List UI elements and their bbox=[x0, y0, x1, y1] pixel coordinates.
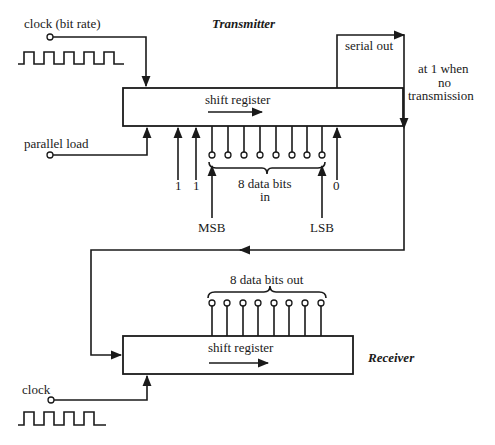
serial-out-label: serial out bbox=[345, 38, 393, 53]
data-in-pin-4 bbox=[257, 152, 263, 158]
transmitter-clock-label: clock (bit rate) bbox=[24, 16, 101, 31]
transmitter-clock-wire bbox=[53, 37, 146, 86]
data-in-pin-3 bbox=[241, 152, 247, 158]
data-in-pin-6 bbox=[289, 152, 295, 158]
data-out-label: 8 data bits out bbox=[230, 272, 304, 287]
transmitter-clock-terminal bbox=[47, 34, 53, 40]
data-out-pin-3 bbox=[240, 300, 246, 306]
transmitter-title: Transmitter bbox=[212, 16, 276, 31]
serial-transmission-diagram: Transmitter clock (bit rate) shift regis… bbox=[0, 0, 495, 445]
data-out-pin-6 bbox=[286, 300, 292, 306]
transmitter-clock-waveform-icon bbox=[18, 52, 124, 64]
data-out-pin-8 bbox=[318, 300, 324, 306]
data-in-pin-2 bbox=[225, 152, 231, 158]
receiver-clock-wire bbox=[54, 376, 147, 400]
idle-note-line1: at 1 when bbox=[418, 61, 469, 76]
data-in-pin-5 bbox=[273, 152, 279, 158]
data-out-brace bbox=[208, 286, 326, 298]
receiver-title: Receiver bbox=[367, 350, 415, 365]
data-in-pin-8 bbox=[319, 152, 325, 158]
receiver-section: shift register Receiver 8 data bits out … bbox=[18, 272, 415, 425]
parallel-load-label: parallel load bbox=[24, 136, 89, 151]
data-out-pin-7 bbox=[302, 300, 308, 306]
data-in-label-line2: in bbox=[260, 189, 271, 204]
data-out-pin-1 bbox=[209, 300, 215, 306]
receiver-clock-label: clock bbox=[22, 382, 51, 397]
receiver-clock-waveform-icon bbox=[18, 412, 106, 425]
transmitter-section: Transmitter clock (bit rate) shift regis… bbox=[18, 16, 474, 235]
msb-label: MSB bbox=[198, 220, 226, 235]
data-out-pin-4 bbox=[255, 300, 261, 306]
lsb-label: LSB bbox=[310, 220, 334, 235]
receiver-clock-terminal bbox=[48, 397, 54, 403]
transmitter-data-pins bbox=[209, 126, 325, 158]
data-out-pin-5 bbox=[271, 300, 277, 306]
end-bit-0-label: 0 bbox=[333, 178, 340, 193]
receiver-register-label: shift register bbox=[208, 340, 274, 355]
data-in-brace bbox=[209, 162, 325, 174]
fixed-bit-1a-label: 1 bbox=[175, 178, 182, 193]
fixed-bit-1b-label: 1 bbox=[193, 178, 200, 193]
data-out-pin-2 bbox=[224, 300, 230, 306]
data-in-pin-1 bbox=[209, 152, 215, 158]
serial-link-wire bbox=[91, 128, 404, 355]
receiver-data-pins bbox=[209, 300, 324, 336]
data-in-pin-7 bbox=[304, 152, 310, 158]
idle-note-line3: transmission bbox=[408, 88, 474, 103]
transmitter-register-label: shift register bbox=[205, 92, 271, 107]
parallel-load-terminal bbox=[47, 152, 53, 158]
